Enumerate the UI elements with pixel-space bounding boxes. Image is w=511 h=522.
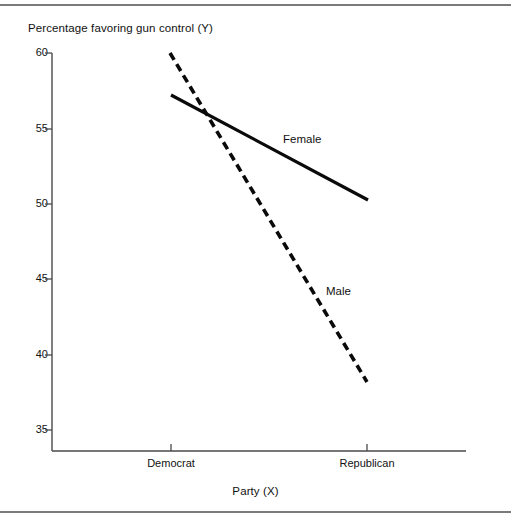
- series-line-male: [170, 53, 367, 382]
- figure-container: Percentage favoring gun control (Y) Part…: [0, 0, 511, 522]
- y-axis-ticks: [45, 53, 52, 430]
- x-axis-ticks: [171, 444, 367, 451]
- series-line-female: [171, 95, 368, 200]
- plot-area: [0, 0, 511, 522]
